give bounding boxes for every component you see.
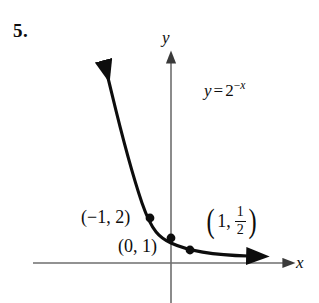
equation-lhs: y <box>204 81 212 100</box>
exponential-decay-figure: 5. y x y=2−x (−1, 2) (0, 1) ( 1, 1 2 ) <box>0 0 319 303</box>
equation-exponent: −x <box>234 79 246 92</box>
point-comma: , <box>226 212 235 230</box>
point-marker-0-1 <box>167 234 176 243</box>
point-x-value: 1 <box>217 212 226 230</box>
point-label-0-1: (0, 1) <box>118 237 157 255</box>
graph-canvas <box>0 0 319 303</box>
fraction-one-half: 1 2 <box>235 205 246 238</box>
fraction-numerator: 1 <box>235 205 246 220</box>
point-label-1-half-inner: 1, 1 2 <box>216 205 247 238</box>
point-marker-neg1-2 <box>146 214 155 223</box>
equation-operator: = <box>212 81 226 100</box>
fraction-denominator: 2 <box>235 223 246 238</box>
equation-base: 2 <box>225 81 234 100</box>
point-label-neg1-2: (−1, 2) <box>81 208 130 226</box>
x-axis-label: x <box>296 254 304 271</box>
open-paren: ( <box>207 207 215 235</box>
y-axis-label: y <box>162 29 170 46</box>
point-marker-1-half <box>186 246 195 255</box>
exponent-variable: x <box>240 79 245 92</box>
equation-label: y=2−x <box>204 80 245 99</box>
close-paren: ) <box>248 207 256 235</box>
problem-number: 5. <box>13 21 28 40</box>
point-label-1-half: ( 1, 1 2 ) <box>205 205 258 238</box>
